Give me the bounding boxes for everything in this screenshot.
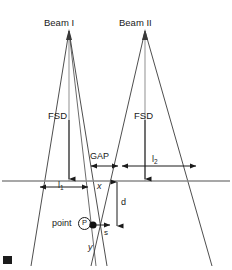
beam-two-apex-marker <box>142 29 148 40</box>
beam-one-apex-marker <box>66 29 72 40</box>
gap-label: GAP <box>90 152 109 161</box>
beam-one-left-edge <box>31 31 69 266</box>
beam-two-left-edge <box>91 31 145 266</box>
d-label: d <box>121 198 126 207</box>
x-label: x <box>97 182 102 191</box>
diagram-canvas: Beam I Beam II FSD FSD GAP l1 l2 x y d s… <box>0 0 232 270</box>
beam-two-group <box>91 29 212 266</box>
beam-two-right-edge <box>145 31 212 266</box>
beam-one-inner-ray <box>69 31 96 266</box>
beam-one-right-edge <box>69 31 107 266</box>
l1-label: l1 <box>58 181 64 191</box>
corner-square-mark <box>3 256 12 264</box>
beam-two-label: Beam II <box>119 18 152 28</box>
beam-one-label: Beam I <box>44 18 74 28</box>
fsd-one-label: FSD <box>48 111 67 121</box>
l2-label: l2 <box>152 155 158 165</box>
s-label: s <box>104 229 108 237</box>
diagram-vector-layer <box>0 0 232 270</box>
y-label: y <box>88 243 93 252</box>
fsd-two-label: FSD <box>134 111 153 121</box>
point-p-circle-label: P <box>78 217 91 230</box>
point-text-label: point <box>52 219 72 228</box>
